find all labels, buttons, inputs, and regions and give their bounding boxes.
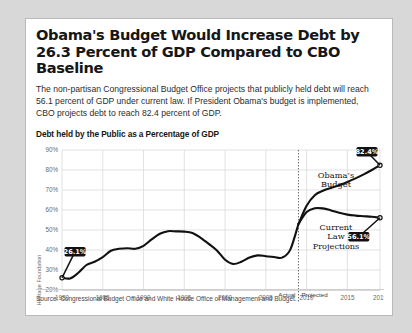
card-content: Obama's Budget Would Increase Debt by 26… [36,27,384,316]
svg-text:Projections: Projections [313,241,360,251]
svg-text:56.1%: 56.1% [347,233,370,241]
svg-text:80%: 80% [45,166,58,173]
value-callouts: 26.1%82.4%56.1% [62,147,380,278]
svg-text:Budget: Budget [321,179,352,189]
svg-text:Projected: Projected [301,290,328,297]
infographic-card: Heritage Foundation Obama's Budget Would… [25,18,393,316]
chart-heading: Debt held by the Public as a Percentage … [36,129,384,139]
svg-text:90%: 90% [45,146,58,153]
svg-text:50%: 50% [45,226,58,233]
svg-text:2015: 2015 [340,294,355,301]
svg-text:30%: 30% [45,266,58,273]
y-axis-labels: 90%80%70%60%50%40%30%20% [45,146,58,293]
svg-text:2019: 2019 [373,294,384,301]
svg-text:82.4%: 82.4% [356,148,379,156]
svg-text:70%: 70% [45,186,58,193]
source-note: Source: Congressional Budget Office and … [36,295,297,302]
svg-text:60%: 60% [45,206,58,213]
page-title: Obama's Budget Would Increase Debt by 26… [36,27,381,77]
source-divider [36,289,384,290]
subtitle-text: The non-partisan Congressional Budget Of… [36,83,376,120]
svg-text:26.1%: 26.1% [64,248,87,256]
svg-text:40%: 40% [45,246,58,253]
